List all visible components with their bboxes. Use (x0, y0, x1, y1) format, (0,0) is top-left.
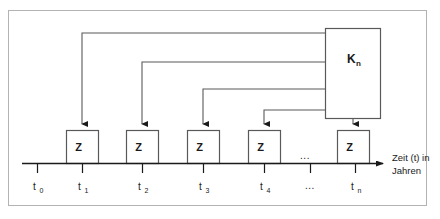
tick-label-sub: 2 (145, 187, 149, 194)
connector-kn-to-z4 (264, 110, 326, 124)
tick-label-sub: 4 (267, 187, 271, 194)
tick-label-tn: t n (351, 181, 362, 194)
axis-caption-line1: Zeit (t) in (392, 152, 429, 163)
payment-box-z1: Z (67, 131, 99, 164)
tick-label-t1: t 1 (78, 181, 89, 194)
payment-box-label: Z (196, 141, 203, 153)
tick-label-base: t (78, 181, 81, 192)
tick-label-sub: n (358, 187, 362, 194)
tick-label-sub: 1 (85, 187, 89, 194)
payment-box-rect (67, 131, 99, 164)
axis-caption: Zeit (t) in Jahren (392, 152, 429, 176)
feedback-connectors (82, 33, 353, 124)
inner-ellipsis: ... (300, 150, 310, 161)
diagram-canvas: K n Z Z Z Z Z (0, 0, 440, 219)
tick-labels: t 0 t 1 t 2 t 3 t 4 ... t (33, 180, 362, 194)
payment-box-label: Z (257, 141, 264, 153)
tick-label-base: t (138, 181, 141, 192)
tick-label-base: t (199, 181, 202, 192)
payment-box-z2: Z (127, 131, 159, 164)
tick-label-t4: t 4 (260, 181, 271, 194)
time-axis (22, 164, 383, 174)
tick-label-base: ... (305, 180, 315, 191)
payment-box-z3: Z (188, 131, 220, 164)
payment-box-label: Z (346, 141, 353, 153)
connector-kn-to-z2 (142, 62, 326, 124)
tick-label-base: t (260, 181, 263, 192)
tick-label-sub: 3 (206, 187, 210, 194)
capital-box-kn: K n (326, 29, 381, 119)
payment-box-label: Z (75, 141, 82, 153)
tick-label-base: t (33, 181, 36, 192)
diagram-svg: K n Z Z Z Z Z (0, 0, 440, 219)
capital-box-rect (326, 29, 381, 119)
tick-label-t2: t 2 (138, 181, 149, 194)
payment-box-rect (127, 131, 159, 164)
tick-label-t3: t 3 (199, 181, 210, 194)
payment-box-rect (188, 131, 220, 164)
tick-label-ellipsis: ... (305, 180, 315, 191)
capital-box-subscript: n (356, 59, 361, 68)
tick-label-base: t (351, 181, 354, 192)
capital-box-label: K (347, 52, 356, 66)
payment-box-zn: Z (338, 131, 370, 164)
tick-label-t0: t 0 (33, 181, 44, 194)
tick-label-sub: 0 (40, 187, 44, 194)
payment-box-z4: Z (249, 131, 281, 164)
axis-caption-line2: Jahren (392, 165, 421, 176)
payment-box-rect (338, 131, 370, 164)
payment-box-label: Z (135, 141, 142, 153)
payment-box-rect (249, 131, 281, 164)
